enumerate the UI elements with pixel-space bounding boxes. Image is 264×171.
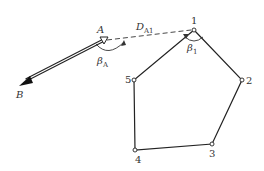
label-1: 1 [191, 15, 197, 26]
vertex-3 [210, 142, 214, 146]
distance-label: D [135, 21, 144, 32]
angle-subscript-a: A [102, 61, 109, 69]
vertex-5 [132, 78, 136, 82]
traverse-diagram: A B 1 2 3 4 5 D A1 β A β 1 [0, 0, 264, 171]
label-3: 3 [209, 148, 215, 159]
distance-subscript: A1 [143, 27, 154, 35]
label-b: B [15, 89, 23, 100]
orientation-arrow [19, 40, 104, 86]
angle-label-1: β [186, 42, 193, 53]
vertex-1 [192, 28, 196, 32]
angle-arc-1 [185, 37, 203, 41]
vertex-4 [133, 148, 137, 152]
angle-label-a: β [96, 55, 103, 66]
label-4: 4 [135, 154, 141, 165]
angle-arrow-icon [121, 40, 126, 46]
angle-subscript-1: 1 [193, 48, 197, 56]
label-2: 2 [246, 75, 252, 86]
vertex-2 [240, 78, 244, 82]
label-5: 5 [125, 74, 131, 85]
label-a: A [96, 24, 104, 35]
